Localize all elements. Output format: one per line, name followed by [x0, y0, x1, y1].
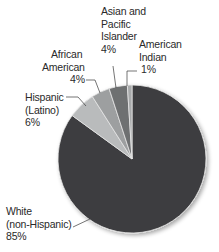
leader-line-asian: [113, 66, 116, 88]
label-african-american: African American 4%: [42, 48, 84, 86]
label-line: (non-Hispanic): [6, 218, 71, 231]
label-value: 85%: [6, 230, 71, 243]
label-line: American: [139, 38, 182, 51]
label-white-non-hispanic: White (non-Hispanic) 85%: [6, 205, 71, 243]
label-value: 6%: [25, 116, 64, 129]
label-line: Hispanic: [25, 91, 64, 104]
pie-slices: [58, 85, 206, 233]
label-line: African: [42, 48, 84, 61]
label-value: 1%: [139, 63, 182, 76]
label-line: Pacific: [101, 18, 146, 31]
label-american-indian: American Indian 1%: [139, 38, 182, 76]
leader-line-white: [73, 219, 90, 227]
label-hispanic-latino: Hispanic (Latino) 6%: [25, 91, 64, 129]
label-value: 4%: [42, 73, 84, 86]
leader-line-african: [86, 80, 100, 93]
label-line: American: [42, 61, 84, 74]
label-line: Indian: [139, 51, 182, 64]
label-line: White: [6, 205, 71, 218]
label-line: (Latino): [25, 104, 64, 117]
label-line: Asian and: [101, 5, 146, 18]
leader-line-indian: [127, 71, 137, 86]
